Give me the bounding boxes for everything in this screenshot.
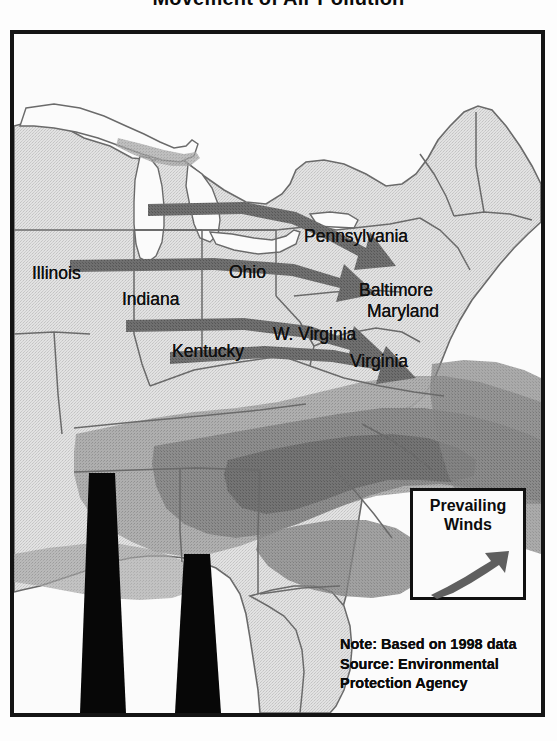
map-frame: Illinois Indiana Ohio Kentucky Pennsylva… bbox=[10, 30, 545, 717]
label-baltimore: Baltimore bbox=[359, 280, 433, 301]
note-line-2: Source: Environmental bbox=[340, 655, 541, 675]
note-line-1: Note: Based on 1998 data bbox=[340, 635, 541, 655]
map-graphic bbox=[14, 34, 541, 713]
label-pennsylvania: Pennsylvania bbox=[304, 226, 408, 247]
label-illinois: Illinois bbox=[32, 263, 81, 284]
map-canvas: Illinois Indiana Ohio Kentucky Pennsylva… bbox=[14, 34, 541, 713]
label-maryland: Maryland bbox=[367, 301, 439, 322]
label-virginia: Virginia bbox=[350, 351, 408, 372]
label-ohio: Ohio bbox=[229, 262, 266, 283]
wind-arrow-wrap bbox=[413, 543, 523, 599]
label-west-virginia: W. Virginia bbox=[273, 324, 356, 345]
source-note: Note: Based on 1998 data Source: Environ… bbox=[340, 635, 541, 694]
prevailing-winds-line2: Winds bbox=[413, 515, 523, 534]
label-indiana: Indiana bbox=[122, 289, 179, 310]
prevailing-winds-text: Prevailing Winds bbox=[413, 496, 523, 534]
prevailing-winds-line1: Prevailing bbox=[413, 496, 523, 515]
figure-root: Movement of Air Pollution bbox=[0, 0, 557, 741]
note-line-3: Protection Agency bbox=[340, 674, 541, 694]
wind-arrow-icon bbox=[413, 543, 529, 599]
label-kentucky: Kentucky bbox=[172, 341, 244, 362]
prevailing-winds-legend: Prevailing Winds bbox=[410, 488, 526, 600]
figure-title: Movement of Air Pollution bbox=[0, 0, 557, 10]
